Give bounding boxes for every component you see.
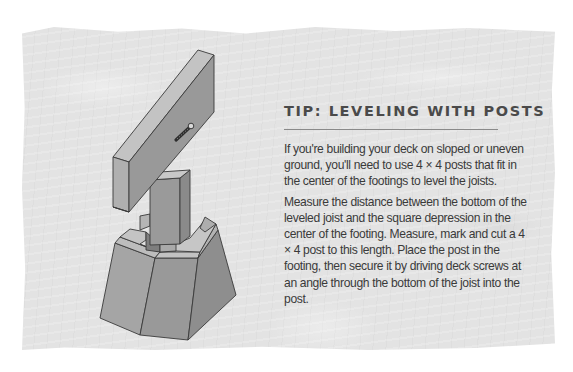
tip-box: TIP: LEVELING WITH POSTS If you're build… <box>284 103 529 311</box>
tip-paragraph-1: If you're building your deck on sloped o… <box>284 141 529 190</box>
post-footing-illustration <box>60 30 280 360</box>
tip-title: TIP: LEVELING WITH POSTS <box>284 103 529 119</box>
post-icon <box>150 170 190 245</box>
tip-paragraph-2: Measure the distance between the bottom … <box>284 194 529 307</box>
title-divider <box>284 129 498 130</box>
